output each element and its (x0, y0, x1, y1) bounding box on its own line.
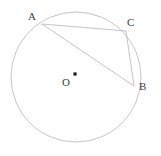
geometry-canvas (0, 0, 161, 156)
center-label-o: O (62, 77, 70, 88)
vertex-label-a: A (28, 11, 36, 22)
main-circle (11, 12, 141, 142)
vertex-label-b: B (139, 81, 146, 92)
chord-a-b (42, 24, 134, 86)
chord-a-c (42, 24, 126, 31)
center-point-dot (73, 72, 76, 75)
geometry-figure: A C B O (0, 0, 161, 156)
chord-c-b (126, 31, 134, 86)
vertex-label-c: C (127, 17, 134, 28)
